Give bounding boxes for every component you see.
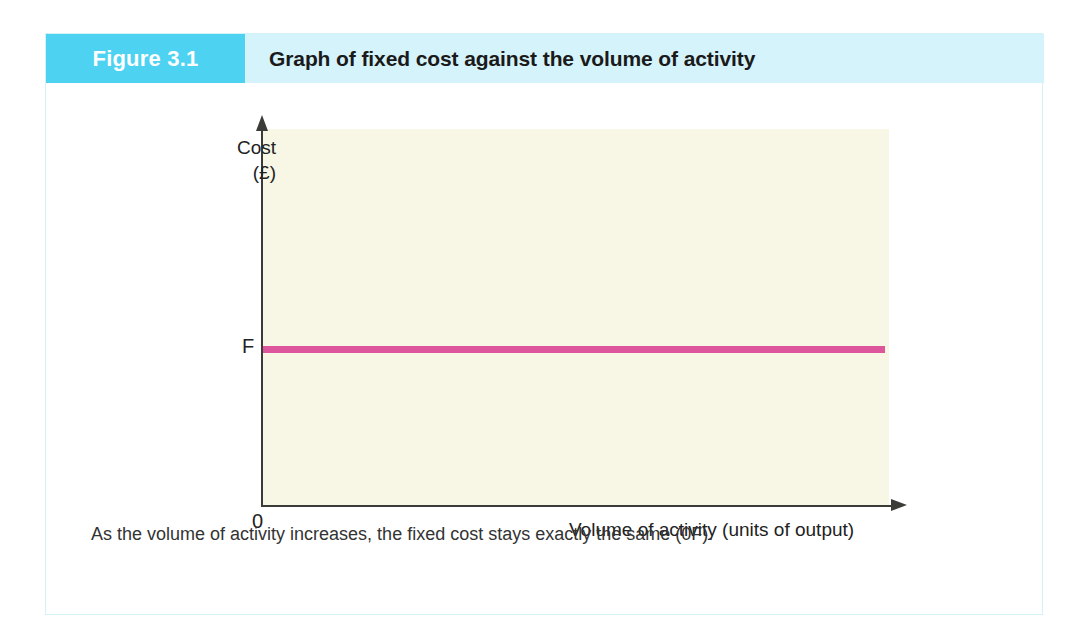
figure-container: Figure 3.1 Graph of fixed cost against t… [45,33,1043,615]
x-axis-arrow-icon [891,499,907,511]
y-axis-title: Cost (£) [237,135,276,185]
figure-number-block: Figure 3.1 [46,34,245,83]
y-axis-title-line-2: (£) [237,160,276,185]
y-axis-arrow-icon [256,115,268,131]
y-axis-tick-label-F: F [242,336,254,356]
x-axis-line [261,505,895,507]
figure-header-bar: Figure 3.1 Graph of fixed cost against t… [46,34,1044,83]
fixed-cost-series-line [263,346,885,353]
figure-title: Graph of fixed cost against the volume o… [245,34,1044,83]
figure-caption: As the volume of activity increases, the… [91,523,991,546]
plot-background [263,129,889,506]
figure-number-label: Figure 3.1 [93,48,199,70]
y-axis-title-line-1: Cost [237,135,276,160]
